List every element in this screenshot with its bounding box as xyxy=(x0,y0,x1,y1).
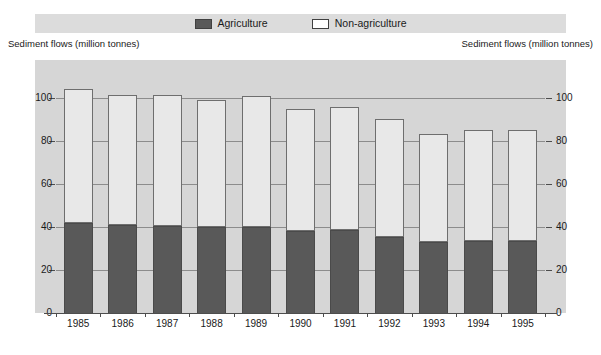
x-axis-baseline xyxy=(44,313,557,314)
bar-group-1994[interactable] xyxy=(464,76,493,313)
x-tick-4 xyxy=(234,313,235,317)
legend-item-non-agriculture: Non-agriculture xyxy=(312,18,407,29)
x-axis-label-1986: 1986 xyxy=(103,318,143,329)
x-axis-labels: 1985198619871988198919901991199219931994… xyxy=(56,318,545,334)
bar-segment-agriculture-1988[interactable] xyxy=(197,227,226,313)
chart-page: Agriculture Non-agriculture Sediment flo… xyxy=(0,0,601,355)
chart-legend: Agriculture Non-agriculture xyxy=(35,14,566,33)
bar-segment-non-agriculture-1992[interactable] xyxy=(375,119,404,236)
x-axis-label-1992: 1992 xyxy=(369,318,409,329)
y-axis-caption-left: Sediment flows (million tonnes) xyxy=(8,38,139,49)
x-tick-end xyxy=(545,313,546,317)
x-tick-3 xyxy=(189,313,190,317)
bar-segment-agriculture-1986[interactable] xyxy=(108,225,137,313)
bar-series-container xyxy=(56,76,545,313)
bar-segment-non-agriculture-1990[interactable] xyxy=(286,109,315,231)
chart-area: 020406080100 020406080100 19851986198719… xyxy=(0,55,601,355)
bar-segment-agriculture-1993[interactable] xyxy=(419,242,448,313)
y-tick-r-40 xyxy=(546,227,552,228)
legend-swatch-agriculture-icon xyxy=(195,19,212,29)
bar-group-1990[interactable] xyxy=(286,76,315,313)
bar-segment-non-agriculture-1986[interactable] xyxy=(108,95,137,224)
legend-item-agriculture: Agriculture xyxy=(195,18,268,29)
bar-segment-agriculture-1989[interactable] xyxy=(242,227,271,313)
bar-group-1988[interactable] xyxy=(197,76,226,313)
y-tick-label-left-80: 80 xyxy=(41,136,52,146)
bar-segment-non-agriculture-1995[interactable] xyxy=(508,130,537,241)
x-axis-label-1985: 1985 xyxy=(58,318,98,329)
y-tick-label-left-60: 60 xyxy=(41,179,52,189)
bar-group-1993[interactable] xyxy=(419,76,448,313)
bar-group-1995[interactable] xyxy=(508,76,537,313)
y-tick-label-right-100: 100 xyxy=(556,93,573,103)
bar-segment-non-agriculture-1988[interactable] xyxy=(197,100,226,227)
y-tick-r-20 xyxy=(546,270,552,271)
x-axis-label-1990: 1990 xyxy=(281,318,321,329)
legend-label-non-agriculture: Non-agriculture xyxy=(335,18,407,29)
bar-segment-agriculture-1985[interactable] xyxy=(64,223,93,313)
bar-group-1992[interactable] xyxy=(375,76,404,313)
y-tick-r-60 xyxy=(546,184,552,185)
x-axis-label-1995: 1995 xyxy=(503,318,543,329)
bar-group-1991[interactable] xyxy=(330,76,359,313)
y-tick-r-80 xyxy=(546,141,552,142)
x-tick-2 xyxy=(145,313,146,317)
bar-segment-non-agriculture-1994[interactable] xyxy=(464,130,493,241)
bar-group-1989[interactable] xyxy=(242,76,271,313)
y-tick-label-right-80: 80 xyxy=(556,136,567,146)
bar-segment-agriculture-1995[interactable] xyxy=(508,241,537,313)
bar-segment-non-agriculture-1993[interactable] xyxy=(419,134,448,242)
bar-segment-agriculture-1987[interactable] xyxy=(153,226,182,313)
x-tick-7 xyxy=(367,313,368,317)
legend-label-agriculture: Agriculture xyxy=(218,18,268,29)
bar-group-1986[interactable] xyxy=(108,76,137,313)
x-tick-6 xyxy=(323,313,324,317)
bar-segment-non-agriculture-1985[interactable] xyxy=(64,89,93,223)
bar-segment-agriculture-1992[interactable] xyxy=(375,237,404,313)
x-axis-label-1987: 1987 xyxy=(147,318,187,329)
x-axis-label-1993: 1993 xyxy=(414,318,454,329)
y-tick-label-left-40: 40 xyxy=(41,222,52,232)
bar-segment-agriculture-1994[interactable] xyxy=(464,241,493,313)
y-tick-label-right-60: 60 xyxy=(556,179,567,189)
bar-segment-agriculture-1991[interactable] xyxy=(330,230,359,313)
x-axis-label-1989: 1989 xyxy=(236,318,276,329)
bar-segment-agriculture-1990[interactable] xyxy=(286,231,315,313)
y-tick-label-right-20: 20 xyxy=(556,265,567,275)
x-tick-0 xyxy=(56,313,57,317)
bar-segment-non-agriculture-1989[interactable] xyxy=(242,96,271,226)
x-tick-8 xyxy=(412,313,413,317)
bar-group-1987[interactable] xyxy=(153,76,182,313)
x-axis-label-1988: 1988 xyxy=(192,318,232,329)
bar-group-1985[interactable] xyxy=(64,76,93,313)
y-tick-r-100 xyxy=(546,98,552,99)
x-tick-10 xyxy=(501,313,502,317)
legend-swatch-non-agriculture-icon xyxy=(312,19,329,29)
bar-segment-non-agriculture-1987[interactable] xyxy=(153,95,182,225)
bar-segment-non-agriculture-1991[interactable] xyxy=(330,107,359,230)
plot-region: 020406080100 020406080100 xyxy=(56,76,545,313)
x-tick-9 xyxy=(456,313,457,317)
x-tick-1 xyxy=(100,313,101,317)
y-tick-label-left-20: 20 xyxy=(41,265,52,275)
y-tick-label-left-100: 100 xyxy=(35,93,52,103)
y-axis-caption-right: Sediment flows (million tonnes) xyxy=(462,38,593,49)
x-axis-label-1994: 1994 xyxy=(458,318,498,329)
y-tick-label-right-40: 40 xyxy=(556,222,567,232)
x-tick-5 xyxy=(278,313,279,317)
x-axis-label-1991: 1991 xyxy=(325,318,365,329)
